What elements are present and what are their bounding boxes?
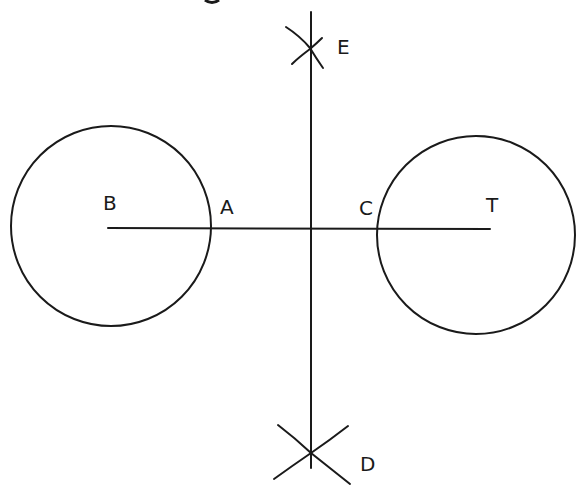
arc-e-1 [286, 27, 323, 68]
label-d: D [360, 454, 375, 474]
geometry-diagram: B A C T E D [0, 0, 577, 496]
label-e: E [337, 37, 350, 57]
cropped-caption-fragment [205, 0, 219, 3]
label-c: C [359, 198, 373, 218]
label-a: A [220, 197, 234, 217]
label-b: B [103, 193, 117, 213]
segment-bt [108, 228, 490, 229]
circle-t [377, 136, 575, 334]
diagram-drawing [0, 0, 577, 496]
label-t: T [486, 195, 498, 215]
circle-b [11, 126, 211, 326]
